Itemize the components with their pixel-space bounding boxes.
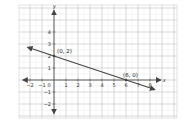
svg-text:4: 4: [100, 82, 103, 88]
svg-text:−2: −2: [44, 101, 51, 107]
svg-text:(6, 0): (6, 0): [123, 72, 138, 78]
svg-text:5: 5: [112, 82, 115, 88]
svg-text:x: x: [162, 77, 166, 83]
svg-text:y: y: [52, 3, 57, 10]
svg-text:2: 2: [76, 82, 79, 88]
svg-text:4: 4: [48, 29, 51, 35]
svg-text:3: 3: [88, 82, 91, 88]
svg-text:6: 6: [124, 82, 127, 88]
svg-text:3: 3: [48, 41, 51, 47]
svg-text:(0, 2): (0, 2): [57, 48, 72, 54]
coordinate-plane: xy −2−1012345678−2−11234 (0, 2)(6, 0): [0, 0, 184, 125]
svg-text:−2: −2: [26, 82, 33, 88]
svg-text:1: 1: [48, 65, 51, 71]
point-annotations: (0, 2)(6, 0): [53, 48, 138, 82]
svg-text:0: 0: [47, 82, 50, 88]
svg-text:−1: −1: [44, 89, 51, 95]
svg-text:1: 1: [64, 82, 67, 88]
svg-text:7: 7: [136, 82, 139, 88]
svg-text:−1: −1: [38, 82, 45, 88]
